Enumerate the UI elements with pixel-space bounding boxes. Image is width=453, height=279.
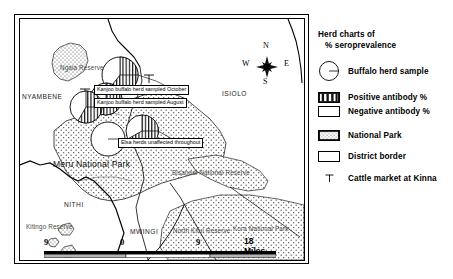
map-label-nyambene: NYAMBENE xyxy=(22,93,63,100)
map-label-bisanadi-national-reserve: Bisanadi National Reserve xyxy=(172,169,250,176)
callout-kanjoo-october: Kanjoo buffalo herd sampled October xyxy=(94,85,189,95)
compass-north-label: N xyxy=(263,41,269,50)
scale-tick-1: 0 xyxy=(120,237,124,247)
legend-label-district-border: District border xyxy=(348,152,406,161)
legend-title-line2: % seroprevalence xyxy=(318,41,450,52)
plain-box-icon xyxy=(318,151,348,162)
cattle-market-marker-kinna xyxy=(144,75,154,83)
scale-tick-2: 9 xyxy=(196,237,200,247)
map-label-kora-national-park: Kora National Park xyxy=(233,225,289,232)
stipple-box-icon xyxy=(318,130,348,141)
legend-item-negative-antibody: Negative antibody % xyxy=(318,106,450,117)
legend-item-buffalo-herd-sample: Buffalo herd sample xyxy=(318,60,450,82)
legend-item-district-border: District border xyxy=(318,151,450,162)
legend-label-buffalo-herd-sample: Buffalo herd sample xyxy=(348,67,429,76)
legend-panel: Herd charts of % seroprevalence Buffalo … xyxy=(318,30,450,184)
legend-item-national-park: National Park xyxy=(318,130,450,141)
map-label-kitingo-reserve: Kitingo Reserve xyxy=(26,223,73,230)
legend-label-negative-antibody: Negative antibody % xyxy=(348,107,430,116)
legend-title-line1: Herd charts of xyxy=(318,30,450,41)
map-panel: N S E W Ngaia Reserve NYAMBENE ISIOLO Me… xyxy=(14,14,309,264)
callout-elsa-herds: Elsa herds unaffected throughout xyxy=(118,138,203,148)
legend-label-positive-antibody: Positive antibody % xyxy=(348,93,427,102)
compass-west-label: W xyxy=(242,59,250,68)
legend-item-cattle-market: Cattle market at Kinna xyxy=(318,172,450,184)
t-marker-icon xyxy=(318,172,348,184)
legend-title: Herd charts of % seroprevalence xyxy=(318,30,450,51)
map-label-isiolo: ISIOLO xyxy=(222,90,247,97)
scale-bar-graphic xyxy=(44,250,276,261)
legend-label-cattle-market: Cattle market at Kinna xyxy=(348,174,437,183)
district-border-northeast xyxy=(288,19,302,83)
herd-pie-icon xyxy=(318,60,348,82)
compass-rose-icon xyxy=(256,56,278,78)
map-label-north-kitui-reserve: North Kitui Reserve xyxy=(173,227,230,234)
map-label-nithi: NITHI xyxy=(64,201,84,208)
map-frame: N S E W Ngaia Reserve NYAMBENE ISIOLO Me… xyxy=(19,18,305,261)
map-label-ngaia-reserve: Ngaia Reserve xyxy=(60,64,104,71)
ngaia-reserve-area xyxy=(52,43,88,81)
map-figure: N S E W Ngaia Reserve NYAMBENE ISIOLO Me… xyxy=(0,0,453,279)
kitingo-reserve-area-3 xyxy=(48,238,59,247)
vertical-hatch-icon xyxy=(318,92,348,103)
scale-tick-0: 9 xyxy=(44,237,48,247)
compass-east-label: E xyxy=(284,59,289,68)
callout-kanjoo-august: Kanjoo buffalo herd sampled August xyxy=(94,98,187,108)
legend-label-national-park: National Park xyxy=(348,131,402,140)
compass-south-label: S xyxy=(263,77,267,86)
legend-item-positive-antibody: Positive antibody % xyxy=(318,92,450,103)
empty-box-icon xyxy=(318,106,348,117)
map-label-meru-national-park: Meru National Park xyxy=(53,159,130,169)
scale-bar: 9 0 9 18 Miles xyxy=(44,248,268,261)
map-label-mwingi: MWINGI xyxy=(130,228,158,235)
